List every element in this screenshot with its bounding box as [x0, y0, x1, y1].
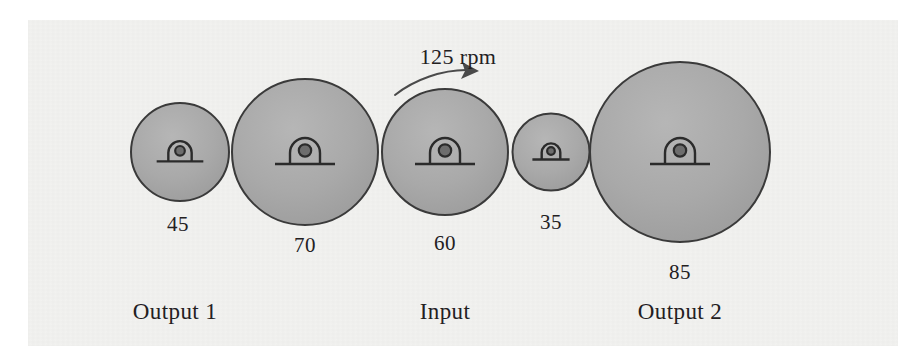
input-speed-label: 125 rpm	[420, 44, 497, 70]
bearing-pin	[175, 146, 185, 156]
bearing-pin	[674, 144, 686, 156]
gear-train-figure: 125 rpm 4570603585 Output 1InputOutput 2	[0, 0, 911, 364]
tooth-count-label-70: 70	[294, 233, 316, 258]
tooth-count-label-60: 60	[434, 231, 456, 256]
tooth-count-label-35: 35	[540, 210, 562, 235]
station-output-2-caption: Output 2	[638, 299, 722, 325]
bearing-pin	[547, 147, 555, 155]
station-output-1-caption: Output 1	[133, 299, 217, 325]
station-input-caption: Input	[420, 299, 471, 325]
bearing-pin	[299, 144, 311, 156]
tooth-count-label-85: 85	[669, 260, 691, 285]
bearing-pin	[439, 144, 451, 156]
tooth-count-label-45: 45	[167, 212, 189, 237]
